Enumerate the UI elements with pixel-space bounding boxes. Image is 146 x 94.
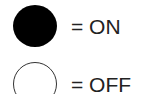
filled-circle-icon xyxy=(13,5,57,47)
legend-label-off: = OFF xyxy=(71,74,131,94)
open-circle-icon xyxy=(13,62,57,94)
legend-label-on: = ON xyxy=(71,16,121,37)
